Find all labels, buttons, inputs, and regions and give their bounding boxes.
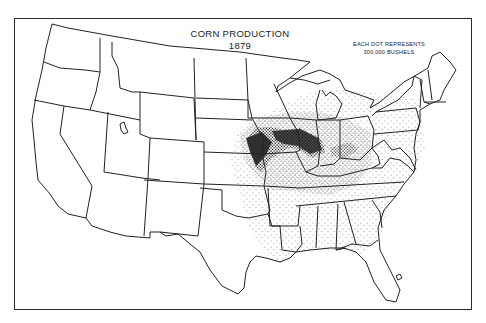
dot-density-layer <box>230 88 425 262</box>
map-legend: EACH DOT REPRESENTS 300,000 BUSHELS <box>345 41 433 56</box>
title-year: 1879 <box>190 40 290 52</box>
title-text: CORN PRODUCTION <box>190 28 290 40</box>
legend-line-2: 300,000 BUSHELS <box>345 49 433 57</box>
legend-line-1: EACH DOT REPRESENTS <box>345 41 433 49</box>
map-title: CORN PRODUCTION 1879 <box>190 28 290 52</box>
